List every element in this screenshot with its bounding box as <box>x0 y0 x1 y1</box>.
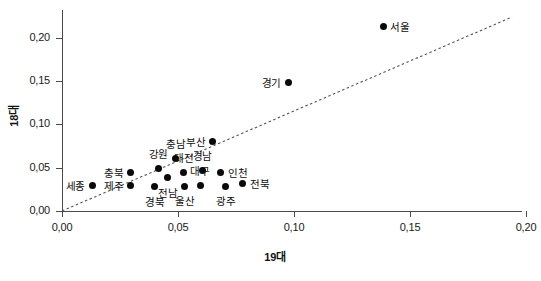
reference-line <box>0 0 529 281</box>
scatter-chart: 18대 19대 0,000,050,100,150,200,000,050,10… <box>0 0 529 281</box>
